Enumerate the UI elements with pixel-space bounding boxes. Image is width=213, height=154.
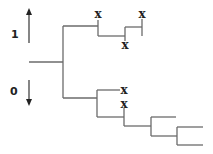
marker-x-upper-right: x <box>138 7 146 21</box>
markers-group: xxxxx <box>94 7 146 111</box>
marker-x-lower-mid: x <box>120 97 128 111</box>
up-arrowhead-icon <box>26 8 32 15</box>
axis-group: 1 0 <box>10 8 32 106</box>
marker-x-lower-top: x <box>120 83 128 97</box>
branches-group <box>29 19 203 145</box>
down-label: 0 <box>10 85 18 98</box>
up-label: 1 <box>11 28 19 41</box>
down-arrowhead-icon <box>26 99 32 106</box>
marker-x-upper-left: x <box>94 7 102 21</box>
tree-diagram: 1 0 xxxxx <box>0 0 213 154</box>
marker-x-upper-mid: x <box>121 38 129 52</box>
